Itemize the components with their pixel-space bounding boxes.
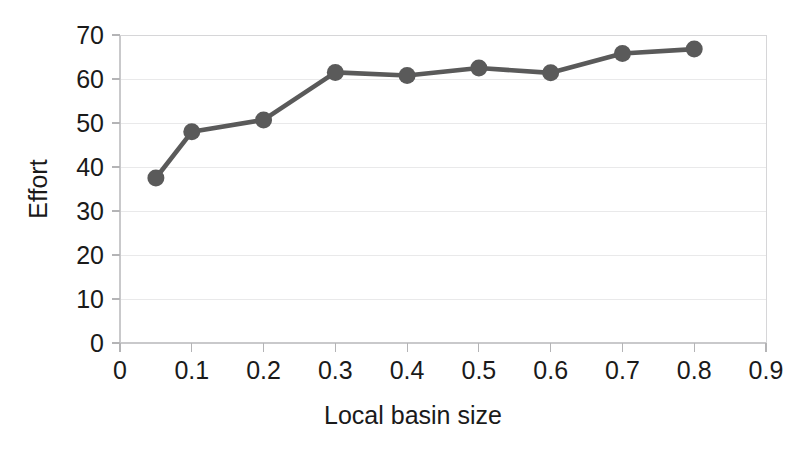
y-tick-label: 0 (90, 329, 104, 357)
y-tick-label: 10 (76, 285, 104, 313)
x-tick-label: 0.9 (749, 356, 784, 384)
data-point-marker (183, 123, 200, 140)
data-point-marker (327, 64, 344, 81)
data-point-marker (147, 170, 164, 187)
chart-figure: 00.10.20.30.40.50.60.70.80.9 01020304050… (0, 0, 806, 452)
x-tick-label: 0.8 (677, 356, 712, 384)
line-chart: 00.10.20.30.40.50.60.70.80.9 01020304050… (0, 0, 806, 452)
chart-background (0, 0, 806, 452)
x-tick-label: 0.1 (174, 356, 209, 384)
x-tick-label: 0.6 (533, 356, 568, 384)
y-tick-label: 30 (76, 197, 104, 225)
x-tick-label: 0.5 (462, 356, 497, 384)
data-point-marker (399, 67, 416, 84)
data-point-marker (542, 64, 559, 81)
x-tick-label: 0 (113, 356, 127, 384)
x-tick-label: 0.2 (246, 356, 281, 384)
y-axis-title: Effort (24, 159, 52, 218)
y-tick-label: 60 (76, 65, 104, 93)
data-point-marker (686, 41, 703, 58)
y-tick-label: 70 (76, 21, 104, 49)
data-point-marker (470, 60, 487, 77)
y-tick-label: 50 (76, 109, 104, 137)
data-point-marker (614, 45, 631, 62)
x-tick-label: 0.4 (390, 356, 425, 384)
data-point-marker (255, 111, 272, 128)
y-tick-label: 40 (76, 153, 104, 181)
x-tick-label: 0.7 (605, 356, 640, 384)
x-tick-label: 0.3 (318, 356, 353, 384)
y-tick-label: 20 (76, 241, 104, 269)
x-axis-title: Local basin size (324, 401, 502, 429)
